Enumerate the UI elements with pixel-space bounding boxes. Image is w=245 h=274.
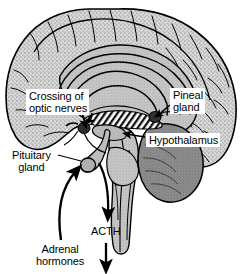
label-adrenal-line-1: Adrenal — [36, 243, 84, 255]
label-pineal-gland: Pineal gland — [170, 88, 205, 114]
acth-descending-arrow[interactable] — [99, 163, 108, 214]
label-adrenal-line-2: hormones — [36, 255, 84, 267]
label-pituitary-line-2: gland — [12, 161, 51, 173]
brain-diagram-figure: Crossing of optic nerves Pineal gland Hy… — [0, 0, 245, 274]
adrenal-hormones-feedback-arrow[interactable] — [59, 171, 76, 240]
label-pineal-line-1: Pineal — [173, 89, 203, 101]
label-crossing-of-optic-nerves: Crossing of optic nerves — [26, 89, 89, 115]
label-acth: ACTH — [91, 225, 121, 237]
label-hypothalamus-text: Hypothalamus — [149, 134, 218, 146]
label-pineal-line-2: gland — [173, 101, 203, 113]
label-pituitary-line-1: Pituitary — [12, 149, 51, 161]
label-adrenal-hormones: Adrenal hormones — [36, 243, 84, 267]
label-crossing-line-1: Crossing of — [29, 90, 87, 102]
label-crossing-line-2: optic nerves — [29, 102, 87, 114]
label-pituitary-gland: Pituitary gland — [12, 149, 51, 173]
label-hypothalamus: Hypothalamus — [146, 133, 220, 147]
pituitary-gland-leader-line — [58, 155, 81, 161]
label-acth-text: ACTH — [91, 225, 121, 237]
